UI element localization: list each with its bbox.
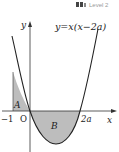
- tick-2a: 2a: [80, 114, 91, 124]
- watermark-text: Level 2: [89, 2, 109, 8]
- origin-label: O: [20, 114, 27, 124]
- x-axis-label: x: [107, 115, 112, 125]
- region-a-label: A: [13, 100, 21, 110]
- parabola-diagram: Level 2 y y=x(x−2a) A B −1 O 2a x: [0, 0, 119, 152]
- x-axis-arrow-icon: [111, 109, 117, 113]
- region-b-label: B: [50, 121, 58, 131]
- y-axis-arrow-icon: [28, 21, 32, 27]
- watermark-bar-icon: [84, 3, 86, 7]
- watermark-bar-icon: [76, 2, 79, 7]
- y-axis-label: y: [20, 20, 27, 30]
- tick-minus-1: −1: [1, 114, 14, 124]
- watermark-bar-icon: [80, 2, 83, 7]
- equation-label: y=x(x−2a): [54, 21, 106, 32]
- watermark: Level 2: [76, 2, 109, 8]
